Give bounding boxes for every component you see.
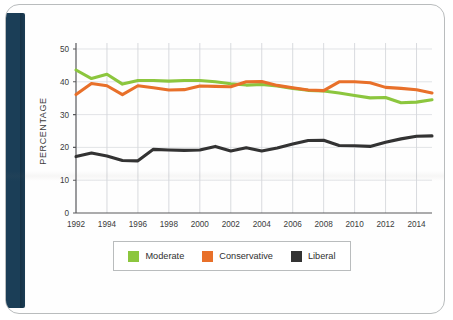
axis-lines — [73, 43, 432, 213]
legend-swatch-liberal — [291, 251, 302, 262]
chart-legend: ModerateConservativeLiberal — [113, 241, 351, 271]
svg-text:2000: 2000 — [191, 220, 210, 229]
series-line-liberal — [76, 136, 432, 161]
legend-entry-liberal[interactable]: Liberal — [291, 251, 336, 262]
legend-entry-moderate[interactable]: Moderate — [128, 251, 184, 262]
y-axis-tick-labels: 01020304050 — [60, 45, 70, 218]
svg-text:2002: 2002 — [222, 220, 241, 229]
svg-text:2014: 2014 — [407, 220, 426, 229]
vertical-gridlines — [76, 43, 417, 213]
svg-text:10: 10 — [60, 176, 70, 185]
x-axis-tick-labels: 1992199419961998200020022004200620082010… — [67, 220, 426, 229]
svg-text:1994: 1994 — [98, 220, 117, 229]
svg-text:30: 30 — [60, 111, 70, 120]
svg-text:2004: 2004 — [253, 220, 272, 229]
svg-text:20: 20 — [60, 143, 70, 152]
legend-swatch-moderate — [128, 251, 139, 262]
svg-text:2008: 2008 — [315, 220, 334, 229]
svg-text:40: 40 — [60, 78, 70, 87]
legend-label-moderate: Moderate — [145, 251, 184, 261]
svg-text:0: 0 — [64, 209, 69, 218]
svg-text:50: 50 — [60, 45, 70, 54]
svg-text:1996: 1996 — [129, 220, 148, 229]
legend-swatch-conservative — [202, 251, 213, 262]
svg-text:2006: 2006 — [284, 220, 303, 229]
legend-label-liberal: Liberal — [308, 251, 336, 261]
page-frame: 01020304050 1992199419961998200020022004… — [5, 4, 445, 314]
y-axis-title: PERCENTAGE — [38, 97, 48, 164]
document-spine-shadow — [20, 13, 26, 308]
svg-text:2012: 2012 — [376, 220, 395, 229]
legend-label-conservative: Conservative — [219, 251, 273, 261]
svg-text:1998: 1998 — [160, 220, 179, 229]
svg-text:2010: 2010 — [345, 220, 364, 229]
svg-text:1992: 1992 — [67, 220, 86, 229]
legend-entry-conservative[interactable]: Conservative — [202, 251, 273, 262]
